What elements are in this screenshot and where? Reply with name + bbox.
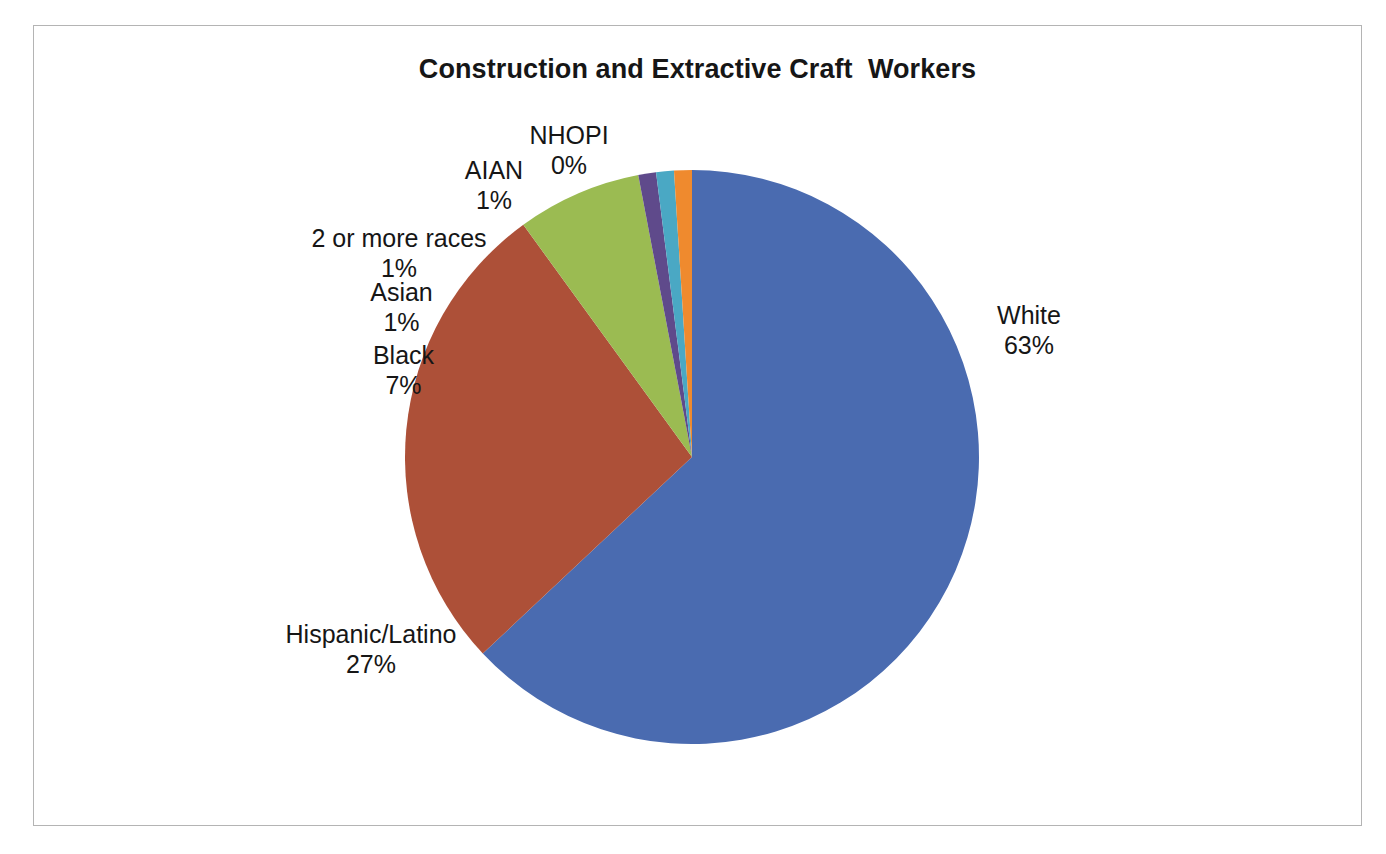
chart-frame: Construction and Extractive Craft Worker…: [33, 25, 1362, 826]
pie-label-two-or-more-races-name: 2 or more races: [284, 224, 514, 254]
pie-label-aian-name: AIAN: [414, 156, 574, 186]
pie-label-white: White 63%: [954, 301, 1104, 360]
pie-label-aian: AIAN 1%: [414, 156, 574, 215]
pie-label-black-name: Black: [326, 341, 481, 371]
pie-label-aian-value: 1%: [414, 186, 574, 216]
pie-label-black: Black 7%: [326, 341, 481, 400]
chart-page: Construction and Extractive Craft Worker…: [0, 0, 1386, 854]
pie-label-two-or-more-races: 2 or more races 1%: [284, 224, 514, 283]
pie-plot-area: NHOPI 0% AIAN 1% 2 or more races 1% Asia…: [34, 26, 1363, 827]
pie-chart: [34, 26, 1363, 827]
pie-label-hispanic-latino-value: 27%: [246, 650, 496, 680]
pie-label-asian-value: 1%: [324, 308, 479, 338]
pie-label-asian: Asian 1%: [324, 278, 479, 337]
pie-label-black-value: 7%: [326, 371, 481, 401]
pie-label-white-value: 63%: [954, 331, 1104, 361]
pie-label-white-name: White: [954, 301, 1104, 331]
pie-label-asian-name: Asian: [324, 278, 479, 308]
pie-label-hispanic-latino-name: Hispanic/Latino: [246, 620, 496, 650]
pie-label-hispanic-latino: Hispanic/Latino 27%: [246, 620, 496, 679]
pie-label-nhopi-name: NHOPI: [489, 121, 649, 151]
